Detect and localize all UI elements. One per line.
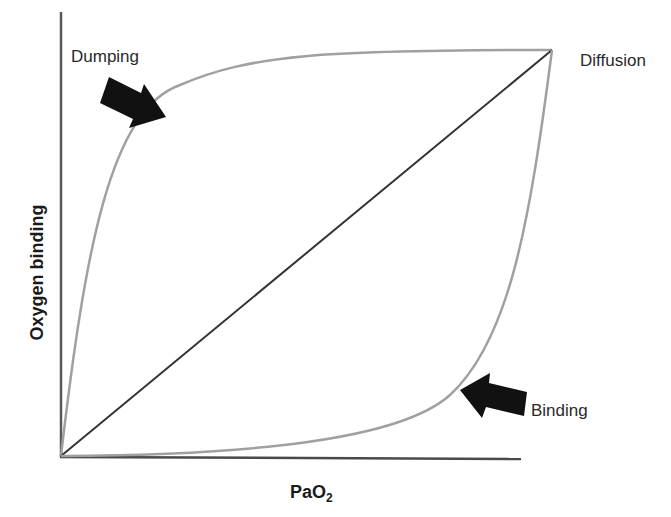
x-axis-label-main: PaO — [290, 482, 326, 502]
y-axis-label: Oxygen binding — [27, 198, 48, 348]
binding-arrow-icon — [460, 373, 527, 418]
x-axis-label: PaO2 — [290, 482, 333, 505]
diffusion-label: Diffusion — [580, 51, 646, 71]
dumping-arrow-icon — [100, 77, 166, 128]
x-axis — [60, 457, 521, 459]
dumping-label: Dumping — [71, 47, 139, 67]
x-axis-label-subscript: 2 — [326, 491, 333, 505]
binding-label: Binding — [531, 401, 588, 421]
chart-canvas — [0, 0, 671, 517]
